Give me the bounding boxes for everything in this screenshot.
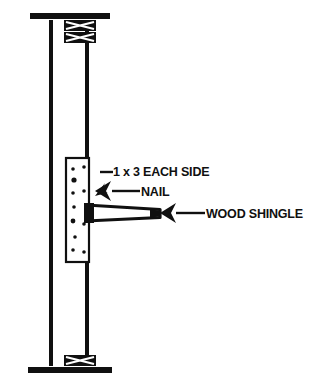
detail-drawing-canvas: 1 x 3 EACH SIDE NAIL WOOD SHINGLE [0, 0, 322, 391]
nail-dot [73, 235, 77, 239]
shingle-outline [86, 205, 160, 221]
shingle-butt-end [84, 203, 94, 223]
nail-dot [82, 250, 86, 254]
wood-shingle-wall-detail-drawing: 1 x 3 EACH SIDE NAIL WOOD SHINGLE [0, 0, 322, 391]
nail-dot [82, 189, 86, 193]
callout-label-nail: NAIL [141, 185, 170, 199]
nail-dot [71, 248, 75, 252]
bottom-plate-hatch-band-1 [64, 355, 96, 366]
shingle-tip [150, 210, 160, 218]
nail-dot [71, 219, 76, 224]
top-plate-hatch-band-1 [64, 20, 96, 31]
callout-label-wood-shingle: WOOD SHINGLE [206, 207, 303, 221]
top-plate-board [30, 13, 110, 19]
bottom-plate-board [28, 367, 112, 373]
nail-dot [82, 165, 86, 169]
nail-dot [71, 191, 75, 195]
nail-dot [72, 205, 76, 209]
nail-dot [71, 167, 75, 171]
top-plate-hatch-band-2 [64, 32, 96, 43]
nail-dot [71, 177, 76, 182]
callout-label-furring-strip: 1 x 3 EACH SIDE [113, 165, 209, 179]
